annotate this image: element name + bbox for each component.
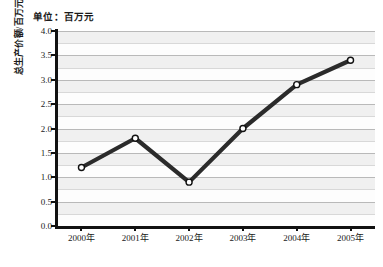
x-axis-tick (296, 226, 298, 231)
plot-band (57, 55, 375, 67)
gridline-minor (57, 92, 375, 93)
y-axis-tick-label: 1.0 (8, 172, 52, 182)
x-axis-tick (134, 226, 136, 231)
plot-band (57, 177, 375, 189)
y-axis-tick (51, 201, 56, 203)
x-axis-tick-label: 2000年 (51, 233, 111, 244)
y-axis-tick-label: 4.0 (8, 26, 52, 36)
gridline-major (57, 177, 375, 178)
gridline-major (57, 202, 375, 203)
x-axis-tick-label: 2002年 (159, 233, 219, 244)
x-axis-tick-label: 2001年 (105, 233, 165, 244)
gridline-minor (57, 43, 375, 44)
y-axis-tick-labels: 0.00.51.01.52.02.53.03.54.0 (4, 0, 52, 267)
x-axis-tick-label: 2005年 (321, 233, 381, 244)
gridline-major (57, 80, 375, 81)
plot-area (57, 31, 375, 226)
y-axis-tick-label: 0.0 (8, 221, 52, 231)
y-axis-tick (51, 79, 56, 81)
gridline-minor (57, 116, 375, 117)
x-axis-tick (188, 226, 190, 231)
gridline-minor (57, 189, 375, 190)
plot-band (57, 153, 375, 165)
y-axis-tick (51, 176, 56, 178)
x-axis-tick (242, 226, 244, 231)
y-axis-tick-label: 1.5 (8, 148, 52, 158)
chart-container: 单位：百万元 总生产价额/百万元 0.00.51.01.52.02.53.03.… (0, 0, 383, 267)
plot-band (57, 31, 375, 43)
plot-band (57, 80, 375, 92)
plot-band (57, 129, 375, 141)
y-axis-tick (51, 225, 56, 227)
y-axis-tick-label: 0.5 (8, 197, 52, 207)
y-axis-tick-label: 3.0 (8, 75, 52, 85)
x-axis-tick (80, 226, 82, 231)
y-axis-tick-label: 2.5 (8, 99, 52, 109)
y-axis-tick (51, 152, 56, 154)
gridline-minor (57, 68, 375, 69)
y-axis-tick-label: 2.0 (8, 124, 52, 134)
gridline-major (57, 153, 375, 154)
y-axis-tick (51, 30, 56, 32)
gridline-major (57, 55, 375, 56)
x-axis-tick-label: 2003年 (213, 233, 273, 244)
y-axis-tick (51, 128, 56, 130)
x-axis-tick-label: 2004年 (267, 233, 327, 244)
x-axis-line (55, 226, 375, 229)
gridline-minor (57, 214, 375, 215)
gridline-minor (57, 165, 375, 166)
gridline-major (57, 104, 375, 105)
x-axis-tick (350, 226, 352, 231)
gridline-minor (57, 141, 375, 142)
y-axis-tick-label: 3.5 (8, 50, 52, 60)
plot-band (57, 104, 375, 116)
y-axis-tick (51, 103, 56, 105)
gridline-major (57, 31, 375, 32)
y-axis-tick (51, 54, 56, 56)
gridline-major (57, 129, 375, 130)
plot-band (57, 202, 375, 214)
